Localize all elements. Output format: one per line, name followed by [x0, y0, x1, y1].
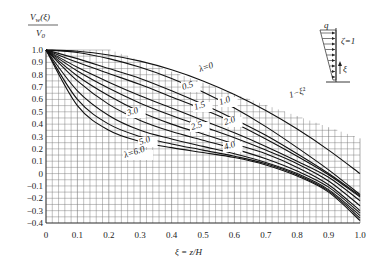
y-tick-label: −0.3	[27, 206, 44, 216]
y-axis-title: Vw(ξ) V0	[28, 12, 58, 40]
y-tick-label: 0.3	[32, 132, 44, 142]
x-tick-label: 0.6	[229, 230, 241, 240]
param-label: ζ=1	[341, 36, 355, 46]
y-tick-label: −0.1	[27, 181, 43, 191]
x-tick-label: 0.9	[323, 230, 335, 240]
y-tick-label: 0.7	[32, 82, 44, 92]
y-tick-label: 0	[39, 169, 44, 179]
x-tick-label: 0	[44, 230, 49, 240]
y-axis-numerator: Vw(ξ)	[30, 12, 50, 24]
y-tick-label: 0.1	[32, 156, 43, 166]
x-tick-label: 0.8	[292, 230, 304, 240]
y-tick-label: 0.9	[32, 57, 44, 67]
shear-distribution-chart: 1−ξ²λ=00.51.01.52.02.53.04.05.0λ=6.0 00.…	[0, 0, 381, 267]
load-arrows-icon	[321, 32, 335, 79]
y-tick-label: −0.4	[27, 218, 44, 228]
y-tick-label: 0.2	[32, 144, 43, 154]
y-tick-label: 1.0	[32, 45, 44, 55]
x-tick-label: 0.5	[197, 230, 209, 240]
x-axis-title: ξ = z/H	[175, 247, 202, 257]
x-tick-label: 0.4	[166, 230, 178, 240]
x-tick-label: 0.1	[72, 230, 83, 240]
y-tick-label: 0.8	[32, 70, 44, 80]
y-tick-label: 0.4	[32, 119, 44, 129]
load-label: q	[324, 20, 329, 30]
y-tick-label: 0.5	[32, 107, 44, 117]
grid	[46, 50, 360, 223]
up-arrow-icon	[338, 61, 342, 66]
y-tick-label: 0.6	[32, 94, 44, 104]
x-tick-label: 0.3	[135, 230, 147, 240]
x-tick-label: 1.0	[354, 230, 366, 240]
x-tick-label: 0.7	[260, 230, 272, 240]
x-tick-label: 0.2	[103, 230, 114, 240]
y-axis-ticks: 1.00.90.80.70.60.50.40.30.20.10−0.1−0.2−…	[27, 45, 44, 228]
y-tick-label: −0.2	[27, 193, 43, 203]
x-axis-ticks: 00.10.20.30.40.50.60.70.80.91.0	[44, 230, 366, 240]
xi-label: ξ	[343, 64, 347, 74]
y-axis-denominator: V0	[36, 28, 46, 40]
load-inset-diagram: q ζ=1 ξ	[320, 20, 355, 82]
